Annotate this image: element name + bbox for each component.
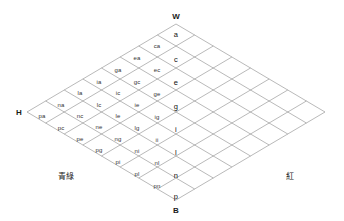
cell-label-ea: ea [134, 55, 141, 61]
cell-label-l: l [175, 148, 177, 157]
cell-label-ca: ca [154, 43, 161, 49]
cell-label-g: g [174, 102, 178, 111]
cell-label-nl: nl [155, 160, 160, 166]
cell-label-pn: pn [154, 183, 161, 189]
vertex-label-black: B [173, 206, 179, 215]
cell-label-ni: ni [135, 148, 140, 154]
cell-label-ic: ic [116, 90, 121, 96]
cell-label-pi: pi [116, 159, 121, 165]
cell-label-ie: ie [135, 102, 140, 108]
cell-label-c: c [174, 55, 178, 64]
cell-label-pg: pg [96, 147, 103, 153]
cell-label-ng: ng [115, 136, 122, 142]
cell-label-ia: ia [97, 79, 102, 85]
cell-label-ii: ii [156, 137, 159, 143]
cell-label-n: n [174, 171, 178, 180]
corner-label-blue-green: 青綠 [58, 170, 74, 181]
color-diamond-diagram: WHB青綠紅acegilnpcaecgeigiinlpneagcielgnipl… [0, 0, 344, 221]
cell-label-p: p [174, 192, 178, 201]
cell-label-ne: ne [96, 124, 103, 130]
cell-label-la: la [78, 90, 83, 96]
cell-label-nc: nc [77, 113, 84, 119]
cell-label-ec: ec [154, 67, 161, 73]
vertex-label-white: W [172, 12, 180, 21]
cell-label-ge: ge [154, 91, 161, 97]
cell-label-pa: pa [39, 113, 46, 119]
cell-label-gc: gc [134, 79, 141, 85]
cell-label-a: a [174, 30, 178, 39]
cell-label-pc: pc [58, 125, 65, 131]
cell-label-pe: pe [77, 136, 84, 142]
cell-label-le: le [116, 113, 121, 119]
cell-label-lc: lc [97, 102, 102, 108]
cell-label-ga: ga [115, 67, 122, 73]
vertex-label-hue: H [16, 108, 22, 117]
cell-label-ig: ig [155, 114, 160, 120]
cell-label-i: i [175, 125, 177, 134]
cell-label-pl: pl [135, 171, 140, 177]
cell-label-e: e [174, 78, 178, 87]
diamond-grid [0, 0, 344, 221]
cell-label-lg: lg [135, 125, 140, 131]
cell-label-na: na [58, 102, 65, 108]
corner-label-red: 紅 [286, 170, 294, 181]
